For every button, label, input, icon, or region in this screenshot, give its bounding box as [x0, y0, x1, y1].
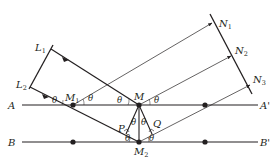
label-p: P — [117, 123, 125, 134]
point-b-right — [202, 139, 207, 144]
point-a-right — [202, 102, 207, 107]
theta-label: θ — [154, 95, 159, 105]
label-l2: L2 — [15, 79, 27, 92]
label-n3: N3 — [252, 74, 266, 87]
label-l1: L1 — [34, 42, 46, 55]
bragg-diffraction-diagram: A A' B B' L1 L2 N1 N2 N3 — [0, 0, 280, 163]
incident-wavefront: L1 L2 — [15, 42, 53, 92]
label-m: M — [133, 91, 145, 102]
label-q: Q — [153, 118, 161, 129]
plane-a-right-label: A' — [259, 100, 270, 111]
theta-label: θ — [149, 133, 154, 143]
label-m2: M2 — [133, 146, 148, 159]
plane-b-right-label: B' — [259, 137, 270, 148]
theta-label: θ — [131, 117, 136, 127]
label-n1: N1 — [218, 18, 232, 31]
point-m2 — [136, 139, 141, 144]
plane-b-left-label: B — [7, 137, 15, 148]
theta-label: θ — [141, 117, 146, 127]
theta-label: θ — [52, 95, 57, 105]
reflected-wavefront: N1 N2 N3 — [210, 14, 266, 94]
plane-a-left-label: A — [7, 100, 15, 111]
theta-label: θ — [88, 93, 93, 103]
point-m — [136, 102, 141, 107]
label-n2: N2 — [234, 45, 248, 58]
point-b-left — [70, 139, 75, 144]
theta-label: θ — [117, 95, 122, 105]
